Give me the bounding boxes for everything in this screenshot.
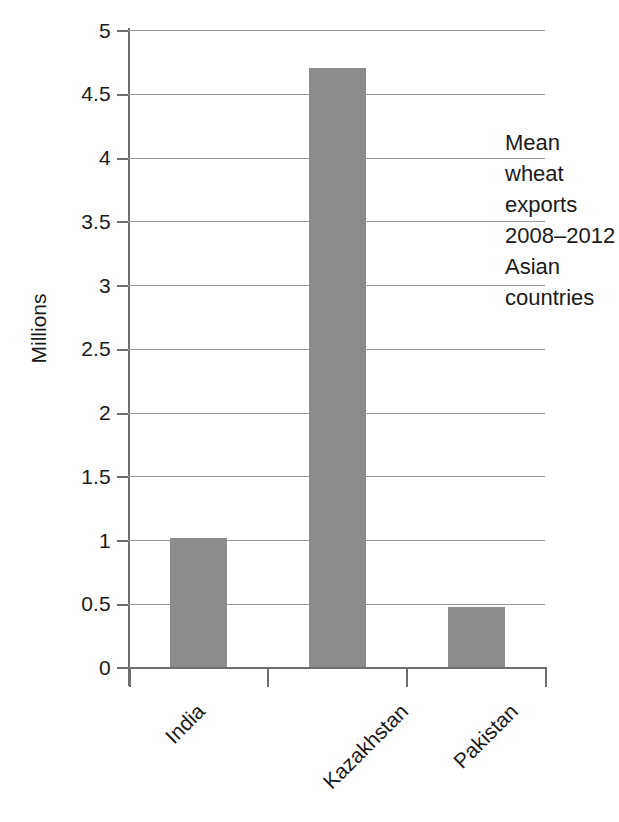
y-axis-tick xyxy=(117,476,128,478)
bar-india xyxy=(170,538,227,668)
plot-area: Mean wheat exports 2008–2012 Asian count… xyxy=(128,30,545,668)
y-tick-label-wrap: 1.5 xyxy=(45,466,111,487)
y-tick-label-wrap: 3.5 xyxy=(45,211,111,232)
y-tick-label-1: 1 xyxy=(51,530,111,551)
y-axis-tick xyxy=(117,349,128,351)
y-tick-label-5: 5 xyxy=(51,20,111,41)
y-tick-label-2-5: 2.5 xyxy=(51,338,111,359)
y-tick-label-wrap: 4 xyxy=(45,147,111,168)
y-tick-label-4-5: 4.5 xyxy=(51,83,111,104)
y-axis-tick xyxy=(117,540,128,542)
y-tick-label-wrap: 0.5 xyxy=(45,593,111,614)
x-axis-line xyxy=(128,667,547,669)
y-axis-tick xyxy=(117,221,128,223)
y-axis-tick xyxy=(117,413,128,415)
y-axis-tick xyxy=(117,285,128,287)
x-axis-tick xyxy=(129,668,131,687)
y-axis-tick xyxy=(117,604,128,606)
chart-annotation: Mean wheat exports 2008–2012 Asian count… xyxy=(505,127,619,313)
y-tick-label-wrap: 1 xyxy=(45,530,111,551)
x-axis-tick xyxy=(406,668,408,687)
x-tick-label-kazakhstan: Kazakhstan xyxy=(319,700,412,793)
gridline-5 xyxy=(128,30,545,31)
y-tick-label-wrap: 0 xyxy=(45,657,111,678)
y-tick-label-wrap: 2 xyxy=(45,402,111,423)
bar-pakistan xyxy=(448,607,505,668)
y-tick-label-wrap: 2.5 xyxy=(45,338,111,359)
y-tick-label-wrap: 4.5 xyxy=(45,83,111,104)
y-tick-label-3-5: 3.5 xyxy=(51,211,111,232)
y-axis-tick xyxy=(117,667,128,669)
y-tick-label-wrap: 3 xyxy=(45,275,111,296)
y-tick-label-0: 0 xyxy=(51,657,111,678)
bar-kazakhstan xyxy=(309,68,366,668)
y-tick-label-1-5: 1.5 xyxy=(51,466,111,487)
y-axis-tick xyxy=(117,158,128,160)
y-tick-label-2: 2 xyxy=(51,402,111,423)
x-tick-label-pakistan: Pakistan xyxy=(450,700,523,773)
y-tick-label-3: 3 xyxy=(51,275,111,296)
y-axis-tick xyxy=(117,30,128,32)
y-tick-label-wrap: 5 xyxy=(45,20,111,41)
x-axis-tick xyxy=(545,668,547,687)
y-tick-label-0-5: 0.5 xyxy=(51,593,111,614)
y-tick-label-4: 4 xyxy=(51,147,111,168)
x-tick-label-india: India xyxy=(161,700,209,748)
x-axis-tick xyxy=(267,668,269,687)
y-axis-tick xyxy=(117,94,128,96)
